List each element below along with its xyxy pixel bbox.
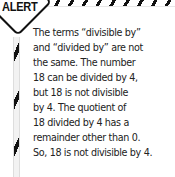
top-dashed-border: [44, 0, 175, 7]
alert-label: ALERT: [2, 0, 37, 14]
body-line: 18 divided by 4 has a: [33, 115, 175, 130]
body-line: and “divided by” are not: [33, 40, 175, 55]
body-line: the same. The number: [33, 55, 175, 70]
body-line: by 4. The quotient of: [33, 100, 175, 115]
body-line: remainder other than 0.: [33, 130, 175, 145]
body-line: 18 can be divided by 4,: [33, 70, 175, 85]
left-dashed-border: [13, 37, 20, 177]
body-line: The terms “divisible by”: [33, 25, 175, 40]
alert-body-text: The terms “divisible by” and “divided by…: [33, 25, 175, 160]
alert-callout: ALERT The terms “divisible by” and “divi…: [0, 0, 175, 177]
body-line: So, 18 is not divisible by 4.: [33, 145, 175, 160]
body-line: but 18 is not divisible: [33, 85, 175, 100]
